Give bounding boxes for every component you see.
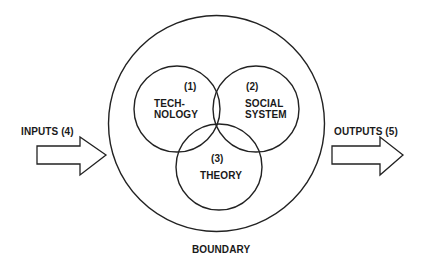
technology-number: (1) — [184, 81, 197, 93]
theory-label: THEORY — [200, 170, 242, 182]
output-arrow-icon — [332, 137, 403, 175]
social-system-label-line2: SYSTEM — [245, 109, 287, 121]
inputs-label: INPUTS (4) — [21, 126, 74, 138]
outputs-label: OUTPUTS (5) — [334, 126, 398, 138]
social-system-number: (2) — [246, 81, 259, 93]
theory-number: (3) — [211, 153, 224, 165]
technology-label-line2: NOLOGY — [154, 109, 198, 121]
input-arrow-icon — [37, 137, 106, 175]
theory-circle — [176, 124, 262, 210]
boundary-label: BOUNDARY — [192, 244, 250, 256]
